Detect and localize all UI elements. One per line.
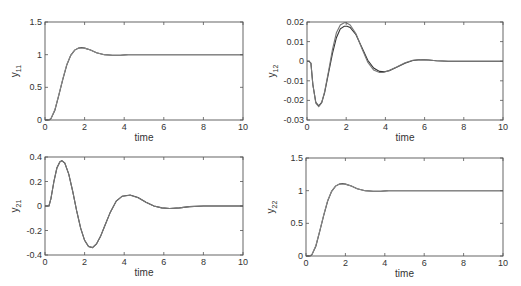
series-line-y22-response-b [306,184,503,256]
y-axis-label: y11 [9,65,22,77]
y-tick-label: 0 [298,251,303,261]
x-axis-label: time [135,267,154,278]
y-tick-label: -0.03 [283,115,304,125]
x-tick-label: 0 [42,257,47,267]
y-tick-label: 0.01 [286,37,304,47]
series-line-y22-response-a [306,183,503,256]
series-line-y12-response-b [307,23,503,107]
y-tick-label: 0.02 [286,17,304,27]
subplot-y21: 0246810-0.4-0.200.20.4timey21 [9,152,248,278]
x-tick-label: 10 [498,258,508,268]
series-line-y11-response-b [45,48,243,120]
x-tick-label: 4 [383,122,388,132]
x-tick-label: 10 [498,122,508,132]
y-axis-label: y12 [266,65,279,78]
x-axis-label: time [395,268,414,279]
y-tick-label: 0.5 [29,82,42,92]
y-tick-label: 0 [299,56,304,66]
x-tick-label: 2 [82,122,87,132]
x-tick-label: 6 [161,257,166,267]
subplot-y11: 024681000.511.5timey11 [9,17,248,143]
plot-frame [45,22,243,120]
y-tick-label: 0 [37,115,42,125]
x-tick-label: 6 [161,122,166,132]
y-tick-label: 0.2 [29,177,42,187]
y-tick-label: 0 [37,201,42,211]
x-tick-label: 4 [122,122,127,132]
series-line-y21-response-a [45,161,243,248]
x-tick-label: 8 [461,258,466,268]
x-tick-label: 6 [422,122,427,132]
x-axis-label: time [396,132,415,143]
x-tick-label: 2 [343,258,348,268]
subplot-y22: 024681000.511.5timey22 [265,153,508,279]
y-tick-label: 1.5 [290,153,303,163]
y-tick-label: -0.01 [283,76,304,86]
step-response-figure: 024681000.511.5timey110246810-0.03-0.02-… [0,0,521,286]
y-tick-label: 0.4 [29,152,42,162]
x-tick-label: 2 [344,122,349,132]
x-tick-label: 10 [238,257,248,267]
x-tick-label: 0 [304,122,309,132]
plot-frame [306,158,503,256]
y-tick-label: 0.5 [290,218,303,228]
y-tick-label: 1 [298,186,303,196]
x-tick-label: 4 [122,257,127,267]
x-tick-label: 4 [382,258,387,268]
subplot-y12: 0246810-0.03-0.02-0.0100.010.02timey12 [266,17,508,143]
y-tick-label: 1.5 [29,17,42,27]
x-tick-label: 6 [422,258,427,268]
y-tick-label: -0.02 [283,95,304,105]
series-line-y11-response-a [45,47,243,120]
y-tick-label: -0.4 [26,250,42,260]
x-axis-label: time [135,132,154,143]
series-line-y21-response-b [45,161,243,248]
x-tick-label: 0 [42,122,47,132]
x-tick-label: 10 [238,122,248,132]
x-tick-label: 0 [303,258,308,268]
y-tick-label: 1 [37,50,42,60]
y-tick-label: -0.2 [26,226,42,236]
x-tick-label: 8 [201,122,206,132]
x-tick-label: 8 [201,257,206,267]
x-tick-label: 8 [461,122,466,132]
x-tick-label: 2 [82,257,87,267]
series-line-y12-response-a [307,26,503,106]
y-axis-label: y21 [9,200,22,213]
y-axis-label: y22 [265,201,278,214]
